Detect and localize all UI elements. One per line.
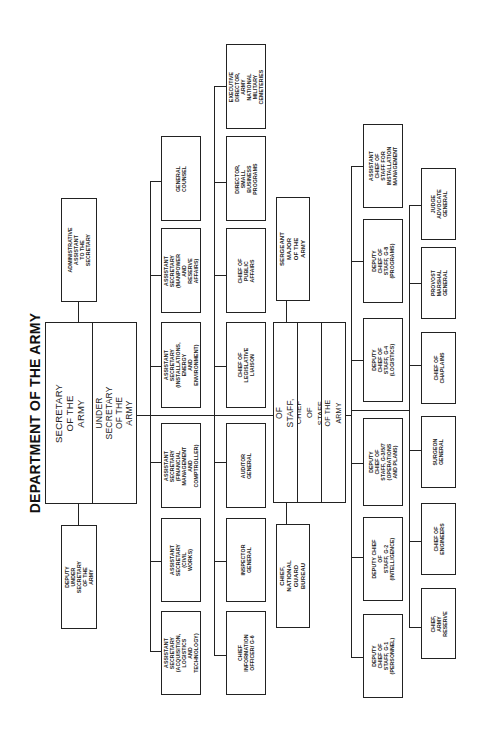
box-chief-public-affairs: CHIEF OF PUBLIC AFFAIRS xyxy=(226,228,266,313)
label: ASSISTANT SECRETARY (ACQUISITION, LOGIST… xyxy=(163,633,199,672)
connector xyxy=(214,561,226,562)
box-dcs-g4: DEPUTY CHIEF OF STAFF, G-4 (LOGISTICS) xyxy=(363,318,403,402)
box-acsim: ASSISTANT CHIEF OF STAFF FOR INSTALLATIO… xyxy=(363,124,403,208)
label: JUDGE ADVOCATE GENERAL xyxy=(430,188,448,221)
box-chief-of-engineers: CHIEF OF ENGINEERS xyxy=(421,503,456,575)
box-auditor-general: AUDITOR GENERAL xyxy=(226,423,266,508)
label: INSPECTOR GENERAL xyxy=(240,541,252,579)
label: SERGEANT MAJOR OF THE ARMY xyxy=(279,232,307,266)
box-director-army-staff: DIRECTOR OF THE ARMY STAFF xyxy=(321,322,346,503)
label: ASSISTANT SECRETARY (MANPOWER AND RESERV… xyxy=(163,252,199,290)
box-vice-chief-of-staff: VICE CHIEF OF STAFF, ARMY xyxy=(297,322,322,503)
label: CHIEF OF CHAPLAINS xyxy=(432,352,444,383)
connector xyxy=(150,651,161,652)
label: EXECUTIVE DIRECTOR, ARMY NATIONAL MILITA… xyxy=(228,68,264,106)
box-chief-army-reserve: CHIEF, ARMY RESERVE xyxy=(421,588,456,659)
box-asa-financial: ASSISTANT SECRETARY (FINANCIAL MANAGEMEN… xyxy=(161,423,201,508)
box-dcs-g357: DEPUTY CHIEF OF STAFF, G-3/5/7 (OPERATIO… xyxy=(363,418,403,506)
label: CHIEF, NATIONAL GUARD BUREAU xyxy=(279,560,307,592)
box-chief-of-staff: CHIEF OF STAFF, ARMY xyxy=(273,322,298,503)
box-national-guard-bureau: CHIEF, NATIONAL GUARD BUREAU xyxy=(276,524,310,628)
box-provost-marshal-general: PROVOST MARSHAL GENERAL xyxy=(421,247,456,319)
connector xyxy=(351,360,363,361)
connector xyxy=(286,503,287,524)
label: CHIEF OF PUBLIC AFFAIRS xyxy=(237,252,255,290)
box-under-secretary: UNDER SECRETARY OF THE ARMY xyxy=(92,322,137,504)
label: SURGEON GENERAL xyxy=(433,439,445,466)
label: ADMINISTRATIVE ASSISTANT TO THE SECRETAR… xyxy=(67,227,91,272)
label: GENERAL COUNSEL xyxy=(175,160,187,198)
connector xyxy=(409,205,421,206)
connector xyxy=(78,504,79,525)
label: DEPUTY UNDER SECRETARY OF THE ARMY xyxy=(64,560,94,594)
connector xyxy=(409,283,421,284)
connector xyxy=(409,541,421,542)
box-admin-assistant: ADMINISTRATIVE ASSISTANT TO THE SECRETAR… xyxy=(61,198,97,302)
box-chief-of-chaplains: CHIEF OF CHAPLAINS xyxy=(421,332,456,404)
box-cio-g6: CHIEF INFORMATION OFFICER/ G-6 xyxy=(226,611,266,695)
box-deputy-under-secretary: DEPUTY UNDER SECRETARY OF THE ARMY xyxy=(61,525,97,629)
connector xyxy=(214,655,226,656)
label: ASSISTANT SECRETARY (INSTALLATIONS, ENER… xyxy=(163,342,199,387)
label: DEPUTY CHIEF OF STAFF, G-4 (LOGISTICS) xyxy=(371,341,395,379)
label: CHIEF INFORMATION OFFICER/ G-6 xyxy=(237,634,255,672)
connector xyxy=(409,627,421,628)
box-director-small-business: DIRECTOR, SMALL BUSINESS PROGRAMS xyxy=(226,136,266,221)
box-asa-installations: ASSISTANT SECRETARY (INSTALLATIONS, ENER… xyxy=(161,322,201,408)
box-judge-advocate-general: JUDGE ADVOCATE GENERAL xyxy=(421,168,456,240)
connector xyxy=(150,561,161,562)
label: ASSISTANT CHIEF OF STAFF FOR INSTALLATIO… xyxy=(368,147,398,186)
box-secretary-of-the-army: SECRETARY OF THE ARMY xyxy=(45,322,93,504)
label: VICE CHIEF OF STAFF, ARMY xyxy=(297,400,322,426)
spine-special-staff xyxy=(409,205,410,627)
connector xyxy=(150,366,161,367)
connector xyxy=(351,261,363,262)
box-inspector-general: INSPECTOR GENERAL xyxy=(226,518,266,602)
chart-title-text: DEPARTMENT OF THE ARMY xyxy=(27,313,43,513)
connector xyxy=(150,462,161,463)
connector xyxy=(78,302,79,322)
box-sergeant-major: SERGEANT MAJOR OF THE ARMY xyxy=(276,197,310,301)
connector xyxy=(214,86,226,87)
box-chief-legislative-liaison: CHIEF OF LEGISLATIVE LIAISON xyxy=(226,322,266,408)
connector xyxy=(409,365,421,366)
label: DEPUTY CHIEF OF STAFF, G-2 (INTELLIGENCE… xyxy=(371,538,395,581)
connector xyxy=(214,275,226,276)
connector xyxy=(351,657,363,658)
connector xyxy=(150,275,161,276)
label: ASSISTANT SECRETARY (FINANCIAL MANAGEMEN… xyxy=(163,444,199,487)
label: AUDITOR GENERAL xyxy=(240,447,252,485)
connector xyxy=(150,181,161,182)
connector xyxy=(351,463,363,464)
label: ASSISTANT SECRETARY (CIVIL WORKS) xyxy=(169,541,193,579)
box-general-counsel: GENERAL COUNSEL xyxy=(161,136,201,221)
connector xyxy=(214,462,226,463)
connector xyxy=(351,557,363,558)
spine-assistant-secretaries xyxy=(150,181,151,651)
spine-deputy-chiefs xyxy=(351,166,352,658)
connector xyxy=(351,166,363,167)
connector xyxy=(286,301,287,322)
label: DIRECTOR, SMALL BUSINESS PROGRAMS xyxy=(234,160,258,198)
label: SECRETARY OF THE ARMY xyxy=(53,384,86,443)
chart-title: DEPARTMENT OF THE ARMY xyxy=(25,318,45,508)
label: CHIEF, ARMY RESERVE xyxy=(430,607,448,640)
label: DEPUTY CHIEF OF STAFF, G-8 (PROGRAMS) xyxy=(371,242,395,280)
box-asa-acquisition: ASSISTANT SECRETARY (ACQUISITION, LOGIST… xyxy=(161,611,201,695)
box-asa-civil-works: ASSISTANT SECRETARY (CIVIL WORKS) xyxy=(161,518,201,602)
spine-secretariat-offices xyxy=(214,86,215,656)
box-exec-director-cemeteries: EXECUTIVE DIRECTOR, ARMY NATIONAL MILITA… xyxy=(226,44,266,129)
connector xyxy=(214,182,226,183)
connector xyxy=(351,410,409,411)
label: CHIEF OF ENGINEERS xyxy=(433,523,445,554)
box-asa-manpower: ASSISTANT SECRETARY (MANPOWER AND RESERV… xyxy=(161,228,201,313)
box-surgeon-general: SURGEON GENERAL xyxy=(421,416,456,488)
label: DEPUTY CHIEF OF STAFF, G-3/5/7 (OPERATIO… xyxy=(368,443,398,481)
connector xyxy=(409,450,421,451)
label: UNDER SECRETARY OF THE ARMY xyxy=(95,387,135,440)
label: CHIEF OF STAFF, ARMY xyxy=(273,398,298,427)
box-dcs-g2: DEPUTY CHIEF OF STAFF, G-2 (INTELLIGENCE… xyxy=(363,517,403,601)
box-dcs-g8: DEPUTY CHIEF OF STAFF, G-8 (PROGRAMS) xyxy=(363,219,403,303)
label: DIRECTOR OF THE ARMY STAFF xyxy=(321,393,346,431)
box-dcs-g1: DEPUTY CHIEF OF STAFF, G-1 (PERSONNEL) xyxy=(363,614,403,698)
